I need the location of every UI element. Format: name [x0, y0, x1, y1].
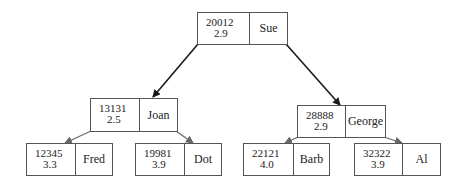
node-gpa: 2.9: [214, 28, 228, 39]
node-gpa: 2.5: [107, 114, 121, 125]
node-name: Sue: [250, 13, 287, 44]
tree-node-fred: 12345 3.3 Fred: [26, 143, 113, 176]
node-gpa: 3.3: [43, 159, 57, 170]
tree-node-george: 28888 2.9 George: [297, 105, 386, 138]
node-name: Dot: [185, 144, 221, 175]
node-key-cell: 22121 4.0: [244, 144, 294, 175]
tree-node-barb: 22121 4.0 Barb: [243, 143, 330, 176]
node-name: George: [346, 106, 385, 137]
edge-sue-joan: [153, 44, 198, 97]
tree-node-al: 32322 3.9 Al: [354, 143, 441, 176]
node-name: Barb: [294, 144, 329, 175]
node-key-cell: 20012 2.9: [198, 13, 250, 44]
node-key-cell: 12345 3.3: [27, 144, 76, 175]
node-name: Fred: [76, 144, 112, 175]
node-key-cell: 19981 3.9: [136, 144, 185, 175]
node-gpa: 4.0: [260, 159, 274, 170]
node-key-cell: 28888 2.9: [298, 106, 346, 137]
node-name: Joan: [140, 99, 177, 131]
node-gpa: 3.9: [371, 159, 385, 170]
node-name: Al: [403, 144, 440, 175]
edge-joan-fred: [65, 131, 91, 143]
node-gpa: 2.9: [314, 121, 328, 132]
tree-node-sue: 20012 2.9 Sue: [197, 12, 288, 45]
node-key-cell: 13131 2.5: [91, 99, 140, 131]
node-gpa: 3.9: [152, 159, 166, 170]
tree-node-dot: 19981 3.9 Dot: [135, 143, 222, 176]
tree-node-joan: 13131 2.5 Joan: [90, 98, 178, 132]
edge-joan-dot: [176, 131, 193, 143]
edge-sue-george: [286, 44, 340, 105]
node-key-cell: 32322 3.9: [355, 144, 403, 175]
